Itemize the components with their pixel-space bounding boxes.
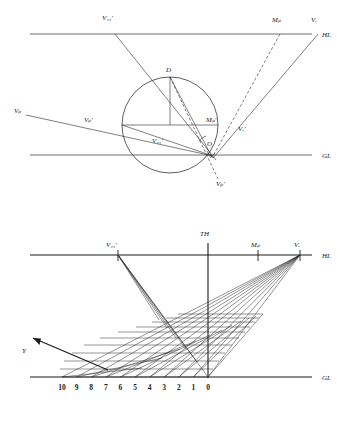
svg-text:3: 3 — [162, 383, 166, 392]
svg-text:10: 10 — [58, 383, 66, 392]
y-direction-arrow-head — [33, 338, 41, 345]
svg-text:8: 8 — [89, 383, 93, 392]
y-direction-arrow-shaft — [33, 338, 108, 370]
label-y-axis: Y — [22, 347, 27, 355]
bottom-horizon-label: HL — [321, 252, 331, 260]
label-d-apex: D — [165, 66, 171, 74]
top-diagram-group: HL GL V₄₅' Mₚ Vᵣ D Vₚ V — [14, 14, 331, 188]
top-ground-label: GL — [322, 152, 331, 160]
svg-text:6: 6 — [119, 383, 123, 392]
label-vp-far-left: Vₚ — [14, 107, 21, 115]
svg-text:7: 7 — [104, 383, 108, 392]
label-bottom-v45: V₄₅' — [106, 241, 117, 249]
label-v45-prime: V₄₅' — [152, 137, 163, 145]
ray-v45-to-station — [115, 34, 216, 160]
true-height-label: TH — [200, 230, 210, 238]
bottom-ground-label: GL — [322, 374, 331, 382]
label-vp-double-prime: Vₚ' — [216, 180, 225, 188]
svg-text:2: 2 — [177, 383, 181, 392]
svg-text:9: 9 — [75, 383, 79, 392]
rays-from-v45 — [118, 255, 208, 377]
label-vp-prime: Vₚ' — [84, 116, 93, 124]
svg-text:1: 1 — [192, 383, 196, 392]
label-v45-top: V₄₅' — [102, 14, 113, 22]
label-station-point: O — [207, 140, 212, 148]
rays-from-vr — [62, 255, 300, 377]
label-bottom-mp: Mₚ — [250, 241, 260, 249]
top-horizon-label: HL — [321, 31, 331, 39]
label-vr-prime: Vᵣ' — [238, 125, 246, 133]
label-vr-top: Vᵣ — [311, 16, 317, 24]
svg-text:5: 5 — [133, 383, 137, 392]
label-mp-top: Mₚ — [271, 16, 281, 24]
ground-scale-numbers: 10 9 8 7 6 5 4 3 2 1 0 — [58, 383, 210, 392]
orthogonals-receding-left — [62, 314, 263, 377]
ray-vr-to-station — [213, 34, 318, 158]
diagram-canvas: HL GL V₄₅' Mₚ Vᵣ D Vₚ V — [0, 0, 349, 425]
bottom-diagram-group: HL GL TH — [22, 230, 331, 392]
label-bottom-vr: Vᵣ — [294, 241, 300, 249]
svg-text:0: 0 — [206, 383, 210, 392]
svg-text:4: 4 — [148, 383, 152, 392]
ray-D-to-vp-lower-dashed — [170, 77, 218, 179]
label-mp-prime: Mₚ' — [205, 116, 217, 124]
ray-mp-to-station-dashed — [212, 34, 280, 158]
